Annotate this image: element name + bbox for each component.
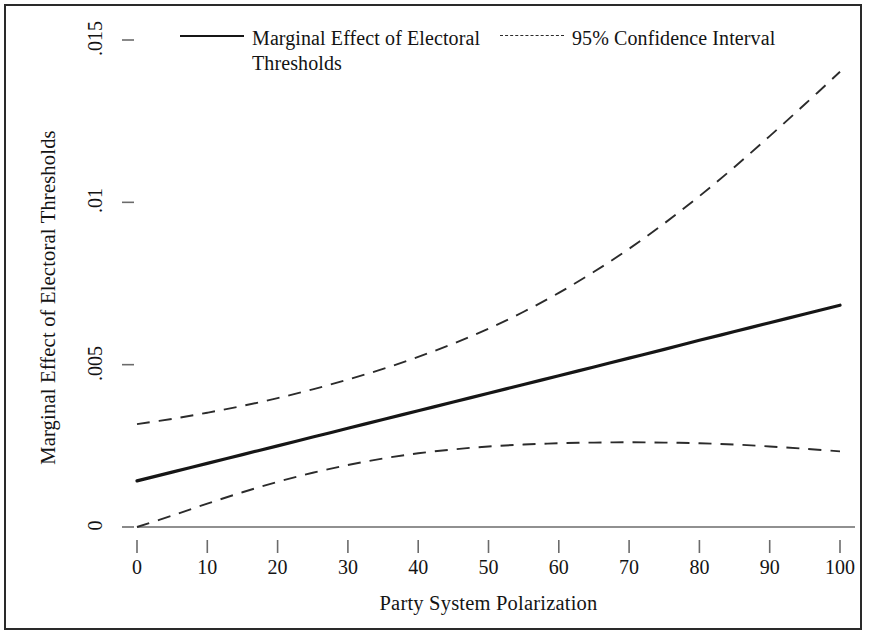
x-tick-label: 10: [177, 556, 237, 579]
y-tick-label: .01: [84, 156, 107, 246]
x-tick-label: 70: [599, 556, 659, 579]
y-tick-label: .015: [84, 0, 107, 84]
plot-area: [0, 0, 870, 644]
x-tick-label: 90: [740, 556, 800, 579]
tick-marks: [122, 40, 840, 553]
series-line-ci-upper: [137, 72, 840, 424]
x-tick-label: 50: [459, 556, 519, 579]
data-series: [137, 72, 840, 527]
x-tick-label: 20: [248, 556, 308, 579]
x-tick-label: 30: [318, 556, 378, 579]
y-tick-label: 0: [84, 481, 107, 571]
y-axis-title: Marginal Effect of Electoral Thresholds: [37, 78, 60, 518]
y-tick-label: .005: [84, 318, 107, 408]
x-tick-label: 60: [529, 556, 589, 579]
series-line-marginal-effect: [137, 305, 840, 481]
figure-container: Marginal Effect of Electoral Thresholds …: [0, 0, 870, 644]
x-axis-title: Party System Polarization: [137, 592, 840, 615]
x-tick-label: 100: [810, 556, 870, 579]
x-tick-label: 0: [107, 556, 167, 579]
x-tick-label: 40: [388, 556, 448, 579]
x-tick-label: 80: [669, 556, 729, 579]
